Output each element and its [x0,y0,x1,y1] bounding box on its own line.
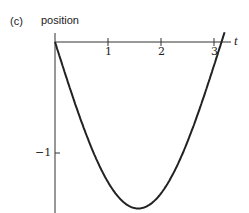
position-plot [0,0,249,213]
position-curve [55,32,225,208]
